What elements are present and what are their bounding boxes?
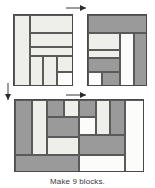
patch-center-band-medium — [47, 117, 79, 137]
patch-tall-white — [120, 33, 134, 86]
patch-band-light — [30, 33, 73, 47]
patch-left-tall-light — [14, 15, 30, 86]
patch-bottom-left-medium — [15, 155, 79, 172]
patch-upper-far-medium — [110, 100, 125, 135]
patch-right-tall-medium — [134, 33, 147, 86]
patch-lower-left-light — [30, 56, 43, 86]
arrow-head — [80, 92, 86, 98]
patch-left-tall-medium — [15, 100, 32, 155]
assembled-block-unit — [14, 99, 144, 172]
patch-bottom-left-white — [88, 72, 102, 86]
top-left-unit — [13, 14, 73, 86]
patch-center-white — [79, 117, 96, 135]
arrow-head — [80, 5, 86, 11]
patch-lower-right-bot-white — [57, 72, 73, 86]
patch-bottom-mid-medium — [102, 72, 120, 86]
patch-upper-right-light — [96, 100, 110, 135]
patch-top-band-medium — [88, 15, 147, 33]
quilt-block-assembly-diagram: Make 9 blocks. — [0, 0, 155, 188]
patch-upper-left-light — [88, 33, 120, 50]
patch-mid-left-medium — [88, 58, 120, 72]
arrow-head — [5, 94, 11, 100]
patch-mid-left-light — [88, 50, 120, 58]
join-top-units-arrow — [66, 4, 86, 11]
patch-upper-mid-light — [64, 100, 79, 117]
join-rows-arrow — [4, 83, 11, 100]
patch-bottom-right-white — [79, 155, 125, 172]
patch-left-tall-light — [32, 100, 47, 155]
patch-mid-right-medium — [79, 135, 125, 155]
patch-upper-right-medium — [79, 100, 96, 117]
patch-right-tall-white — [125, 100, 144, 172]
patch-top-right-light — [30, 15, 73, 33]
patch-lower-right-top-light — [57, 56, 73, 72]
patch-lower-center-light — [43, 56, 57, 86]
top-right-unit — [87, 14, 147, 86]
patch-upper-mid-medium — [47, 100, 64, 117]
assemble-block-arrow — [66, 91, 86, 98]
caption-text: Make 9 blocks. — [0, 177, 155, 186]
patch-mid-left-light — [47, 137, 79, 155]
patch-mid-strip-light — [30, 47, 73, 56]
